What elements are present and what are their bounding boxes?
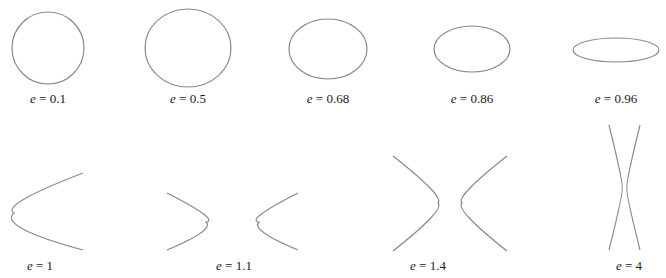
label-e-0-1: e = 0.1 bbox=[30, 91, 66, 107]
label-equals: = bbox=[222, 258, 236, 273]
ellipse-e-0-1 bbox=[12, 12, 84, 84]
label-value: 0.1 bbox=[50, 91, 66, 106]
ellipse-e-0-5 bbox=[145, 9, 231, 87]
label-equals: = bbox=[36, 91, 50, 106]
hyperbola-e-1-4-right-branch bbox=[461, 156, 507, 251]
label-equals: = bbox=[313, 91, 327, 106]
parabola-e-1 bbox=[11, 173, 83, 250]
label-value: 0.5 bbox=[190, 91, 206, 106]
label-value: 1.1 bbox=[236, 258, 252, 273]
conic-curves-canvas bbox=[0, 0, 666, 278]
label-equals: = bbox=[416, 258, 430, 273]
label-value: 1 bbox=[47, 258, 54, 273]
label-value: 1.4 bbox=[430, 258, 446, 273]
ellipse-e-0-96 bbox=[573, 38, 659, 62]
label-value: 0.68 bbox=[326, 91, 349, 106]
label-e-0-5: e = 0.5 bbox=[170, 91, 206, 107]
label-equals: = bbox=[33, 258, 47, 273]
label-e-1: e = 1 bbox=[27, 258, 53, 274]
label-e-0-68: e = 0.68 bbox=[307, 91, 349, 107]
conic-eccentricity-figure: e = 0.1 e = 0.5 e = 0.68 e = 0.86 e = 0.… bbox=[0, 0, 666, 278]
label-value: 4 bbox=[636, 258, 643, 273]
hyperbola-e-4-left-branch bbox=[609, 125, 622, 250]
label-value: 0.96 bbox=[614, 91, 637, 106]
hyperbola-e-1-1-right-branch bbox=[256, 193, 298, 250]
hyperbola-e-1-1-left-branch bbox=[167, 193, 209, 250]
hyperbola-e-4-right-branch bbox=[627, 125, 640, 250]
label-equals: = bbox=[622, 258, 636, 273]
label-e-4: e = 4 bbox=[616, 258, 642, 274]
label-value: 0.86 bbox=[470, 91, 493, 106]
ellipse-e-0-86 bbox=[434, 26, 510, 72]
label-e-1-1: e = 1.1 bbox=[216, 258, 252, 274]
label-equals: = bbox=[601, 91, 615, 106]
label-e-1-4: e = 1.4 bbox=[410, 258, 446, 274]
ellipse-e-0-68 bbox=[289, 19, 367, 79]
hyperbola-e-1-4-left-branch bbox=[393, 156, 439, 251]
label-equals: = bbox=[176, 91, 190, 106]
label-e-0-96: e = 0.96 bbox=[595, 91, 637, 107]
label-equals: = bbox=[457, 91, 471, 106]
label-e-0-86: e = 0.86 bbox=[451, 91, 493, 107]
